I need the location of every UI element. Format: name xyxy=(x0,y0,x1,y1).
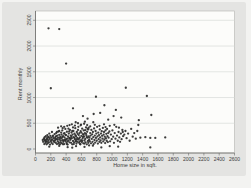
scatter-point xyxy=(77,129,79,131)
scatter-point xyxy=(112,115,114,117)
scatter-point xyxy=(94,130,96,132)
x-tick-label-600: 600 xyxy=(77,157,85,162)
x-tick-label-1000: 1000 xyxy=(106,157,117,162)
scatter-point xyxy=(66,143,68,145)
scatter-point xyxy=(138,119,140,121)
y-tick-label-1500: 1500 xyxy=(27,66,32,77)
scatter-point xyxy=(149,137,151,139)
scatter-point xyxy=(97,142,99,144)
scatter-point xyxy=(119,141,121,143)
scatter-point xyxy=(99,139,101,141)
x-tick-label-800: 800 xyxy=(93,157,101,162)
scatter-point xyxy=(95,96,97,98)
scatter-point xyxy=(83,142,85,144)
y-tick-label-1000: 1000 xyxy=(27,92,32,103)
scatter-point xyxy=(117,140,119,142)
scatter-point xyxy=(52,143,54,145)
scatter-point xyxy=(96,126,98,128)
scatter-point xyxy=(57,138,59,140)
scatter-point xyxy=(92,145,94,147)
scatter-point xyxy=(50,139,52,141)
scatter-point xyxy=(71,147,73,149)
scatter-point xyxy=(45,140,47,142)
scatter-point xyxy=(68,130,70,132)
scatter-point xyxy=(99,128,101,130)
scatter-point xyxy=(89,140,91,142)
scatter-point xyxy=(124,130,126,132)
scatter-point xyxy=(97,138,99,140)
scatter-point xyxy=(81,140,83,142)
scatter-point xyxy=(68,132,70,134)
scatter-point xyxy=(112,135,114,137)
scatter-point xyxy=(106,128,108,130)
scatter-point xyxy=(99,136,101,138)
scatter-point xyxy=(116,134,118,136)
scatter-point xyxy=(51,131,53,133)
scatter-point xyxy=(107,119,109,121)
scatter-point xyxy=(121,129,123,131)
scatter-point xyxy=(149,146,151,148)
scatter-point xyxy=(89,125,91,127)
scatter-point xyxy=(73,137,75,139)
scatter-point xyxy=(164,136,166,138)
scatter-point xyxy=(58,145,60,147)
scatter-point xyxy=(94,134,96,136)
x-tick-label-1800: 1800 xyxy=(168,157,179,162)
scatter-point xyxy=(101,130,103,132)
scatter-point xyxy=(60,133,62,135)
scatter-point xyxy=(48,136,50,138)
scatter-point xyxy=(84,121,86,123)
scatter-point xyxy=(66,131,68,133)
scatter-point xyxy=(118,126,120,128)
scatter-point xyxy=(96,140,98,142)
y-tick-label-0: 0 xyxy=(27,148,32,151)
scatter-point xyxy=(86,136,88,138)
scatter-point xyxy=(127,132,129,134)
scatter-point xyxy=(54,138,56,140)
scatter-point xyxy=(105,137,107,139)
plot-area xyxy=(36,11,235,153)
scatter-point xyxy=(144,136,146,138)
scatter-point xyxy=(93,139,95,141)
scatter-point xyxy=(120,132,122,134)
scatter-point xyxy=(120,138,122,140)
scatter-point xyxy=(86,124,88,126)
scatter-point xyxy=(84,129,86,131)
scatter-point xyxy=(122,131,124,133)
scatter-point xyxy=(104,126,106,128)
scatter-point xyxy=(86,131,88,133)
scatter-point xyxy=(74,124,76,126)
scatter-point xyxy=(103,104,105,106)
scatter-point xyxy=(113,124,115,126)
scatter-point xyxy=(58,130,60,132)
scatter-point xyxy=(82,115,84,117)
scatter-point xyxy=(120,116,122,118)
scatter-point xyxy=(83,146,85,148)
scatter-point xyxy=(146,95,148,97)
scatter-point xyxy=(70,135,72,137)
scatter-point xyxy=(62,143,64,145)
scatter-point xyxy=(71,123,73,125)
scatter-point xyxy=(50,87,52,89)
scatter-point xyxy=(75,121,77,123)
scatter-point xyxy=(109,145,111,147)
x-tick-label-1200: 1200 xyxy=(122,157,133,162)
scatter-point xyxy=(48,132,50,134)
scatter-point xyxy=(83,134,85,136)
scatter-point xyxy=(48,146,50,148)
scatter-point xyxy=(82,136,84,138)
scatter-point xyxy=(49,143,51,145)
scatter-point xyxy=(130,128,132,130)
scatter-point xyxy=(63,139,65,141)
scatter-point xyxy=(57,142,59,144)
scatter-point xyxy=(55,135,57,137)
scatter-point xyxy=(90,129,92,131)
scatter-point xyxy=(80,123,82,125)
scatter-point xyxy=(150,114,152,116)
y-tick-label-500: 500 xyxy=(27,119,32,127)
scatter-point xyxy=(85,133,87,135)
scatter-point xyxy=(98,125,100,127)
scatter-point xyxy=(125,137,127,139)
y-tick-label-2500: 2500 xyxy=(27,15,32,26)
scatter-point xyxy=(107,137,109,139)
